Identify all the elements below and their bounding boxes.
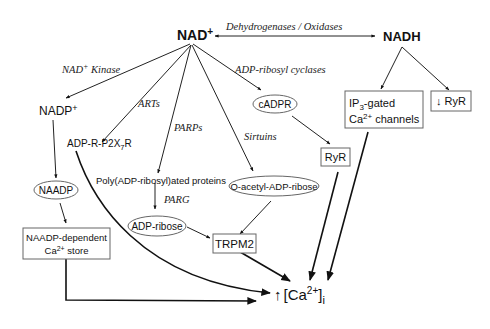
node-ca-i: ↑[Ca2+]i bbox=[274, 285, 325, 306]
edge-adpribose-trpm2 bbox=[187, 227, 210, 238]
label-arts: ARTs bbox=[137, 98, 160, 109]
node-naadp-store-line2: Ca2+ store bbox=[45, 245, 89, 256]
label-dehydrogenases: Dehydrogenases / Oxidases bbox=[225, 21, 342, 32]
edge-nadh-ip3 bbox=[381, 47, 402, 89]
edge-trpm2-ca bbox=[235, 249, 290, 281]
node-adp-r-p2x7r: ADP-R-P2X7R bbox=[67, 138, 132, 152]
label-sirtuins: Sirtuins bbox=[244, 131, 277, 142]
node-ip3-line2: Ca2+ channels bbox=[349, 112, 420, 125]
edge-nad-poly bbox=[158, 45, 191, 173]
node-adp-ribose: ADP-ribose bbox=[131, 221, 183, 232]
label-parg: PARG bbox=[163, 194, 190, 205]
node-cadpr: cADPR bbox=[259, 99, 292, 110]
node-nadh: NADH bbox=[383, 29, 421, 44]
node-o-acetyl: O-acetyl-ADP-ribose bbox=[230, 181, 317, 192]
node-naadp-store-line1: NAADP-dependent bbox=[26, 232, 107, 243]
edge-cadpr-ryr bbox=[292, 116, 330, 144]
edge-oacetyl-trpm2 bbox=[240, 201, 271, 234]
node-down-ryr: ↓ RyR bbox=[436, 95, 466, 107]
label-parps: PARPs bbox=[173, 122, 202, 133]
node-poly-adp: Poly(ADP-ribosyl)ated proteins bbox=[96, 175, 226, 186]
nad-calcium-signaling-diagram: Dehydrogenases / Oxidases NAD+ Kinase AR… bbox=[0, 0, 490, 329]
node-trpm2: TRPM2 bbox=[215, 238, 254, 250]
edge-naadp-store bbox=[60, 203, 66, 223]
edge-nad-nadp bbox=[66, 44, 190, 98]
node-naadp: NAADP bbox=[39, 185, 74, 196]
edge-nadh-down-ryr bbox=[402, 47, 449, 90]
up-arrow-icon: ↑ bbox=[274, 286, 282, 303]
edges bbox=[53, 36, 449, 301]
edge-nadp-naadp bbox=[53, 120, 56, 178]
edge-store-ca bbox=[66, 258, 256, 301]
node-nadp: NADP+ bbox=[39, 103, 78, 118]
label-nad-kinase: NAD+ Kinase bbox=[61, 62, 121, 75]
node-nad: NAD+ bbox=[177, 26, 213, 43]
label-adp-ribosyl-cyclases: ADP-ribosyl cyclases bbox=[234, 64, 326, 75]
node-ryr: RyR bbox=[325, 151, 346, 163]
